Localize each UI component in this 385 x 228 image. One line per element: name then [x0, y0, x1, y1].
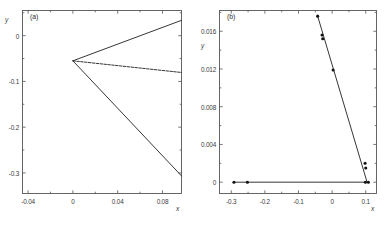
- data-point: [316, 15, 319, 18]
- y-tick-label: 0.016: [201, 28, 216, 35]
- x-tick-label: -0.04: [21, 198, 35, 205]
- data-point: [232, 181, 235, 184]
- panel-a-plot: [0, 0, 192, 228]
- y-tick-label: 0.004: [201, 141, 216, 148]
- panel-a-tag: (a): [30, 13, 38, 20]
- x-tick-label: -0.3: [226, 198, 236, 205]
- x-tick-label: 0.1: [362, 198, 370, 205]
- panel-b-tag: (b): [227, 13, 235, 20]
- data-point: [332, 68, 335, 71]
- panel-a: (a) x y -0.0400.040.080-0.1-0.2-0.3: [0, 0, 192, 228]
- panel-a-x-axis-label: x: [176, 205, 179, 212]
- x-tick-label: -0.1: [293, 198, 303, 205]
- figure-container: (a) x y -0.0400.040.080-0.1-0.2-0.3 (b) …: [0, 0, 385, 228]
- x-tick-label: 0.04: [112, 198, 124, 205]
- panel-b-y-axis-label: y: [201, 42, 204, 49]
- panel-b-plot: [193, 0, 385, 228]
- y-tick-label: -0.2: [9, 124, 19, 131]
- data-point: [364, 166, 367, 169]
- data-point: [364, 181, 367, 184]
- y-tick-label: -0.1: [9, 78, 19, 85]
- panel-b-x-axis-label: x: [371, 205, 374, 212]
- data-point: [367, 181, 370, 184]
- y-tick-label: -0.3: [9, 169, 19, 176]
- data-point: [321, 37, 324, 40]
- x-tick-label: 0: [71, 198, 74, 205]
- x-tick-label: 0: [330, 198, 333, 205]
- x-tick-label: 0.08: [157, 198, 169, 205]
- x-tick-label: -0.2: [260, 198, 270, 205]
- data-point: [246, 181, 249, 184]
- y-tick-label: 0: [16, 32, 19, 39]
- y-tick-label: 0.012: [201, 65, 216, 72]
- y-tick-label: 0.008: [201, 103, 216, 110]
- y-tick-label: 0: [213, 179, 216, 186]
- data-point: [364, 162, 367, 165]
- panel-a-y-axis-label: y: [5, 16, 8, 23]
- data-point: [320, 33, 323, 36]
- panel-b: (b) x y -0.3-0.2-0.100.100.0040.0080.012…: [193, 0, 385, 228]
